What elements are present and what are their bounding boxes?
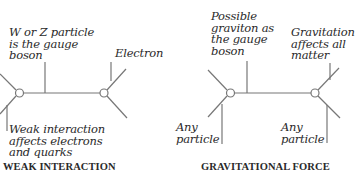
gravity-left-upper-leg [208, 70, 227, 90]
gravity-boson-label: Possible graviton as the gauge boson [211, 11, 274, 57]
gravity-matter-label: Gravitation affects all matter [291, 27, 355, 62]
gravity-left-particle-label: Any particle [176, 122, 219, 145]
weak-right-lower-leg [107, 96, 127, 118]
gravity-right-upper-leg [318, 68, 339, 90]
weak-interaction-diagram [0, 62, 127, 131]
weak-right-upper-leg [107, 69, 126, 90]
weak-electron-label: Electron [115, 48, 163, 60]
weak-vertex-left [16, 89, 24, 97]
gravity-vertex-right [311, 89, 319, 97]
weak-boson-label: W or Z particle is the gauge boson [9, 27, 94, 62]
gravity-vertex-left [227, 89, 235, 97]
weak-left-lower-leg [0, 96, 16, 114]
gravity-left-lower-leg [208, 96, 227, 117]
gravitational-force-caption: GRAVITATIONAL FORCE [201, 161, 330, 172]
weak-interaction-label: Weak interaction affects electrons and q… [9, 124, 105, 159]
gravity-right-particle-label: Any particle [281, 122, 324, 145]
weak-interaction-caption: WEAK INTERACTION [3, 161, 116, 172]
weak-left-upper-leg [0, 74, 16, 90]
weak-vertex-right [100, 89, 108, 97]
gravity-right-lower-leg [318, 96, 340, 118]
